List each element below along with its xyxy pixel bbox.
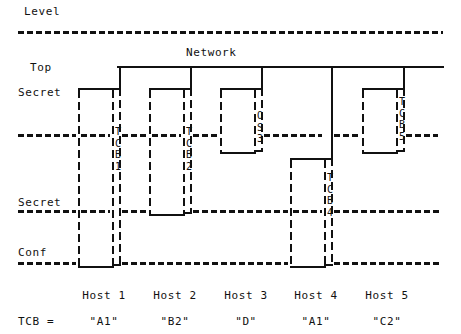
host-2-tcb-column-bottom [183,212,192,214]
host-2-box-left [149,90,151,214]
host-2-tcb-stack: T C B 2 [184,126,194,172]
host-1-box-bottom [78,266,114,268]
host-label-5: Host 5 [359,289,415,302]
host-1-tcb-stack: T C B 1 [113,126,123,172]
host-1-tcb-column-right [119,88,121,266]
host-4-network-stem [331,66,333,158]
tcb-row-label: TCB = [18,316,54,328]
host-label-3: Host 3 [218,289,274,302]
host-3-box-bottom [220,152,256,154]
tcb-value-host-3: "D" [218,315,274,328]
host-5-box-left [362,90,364,152]
host-label-2: Host 2 [147,289,203,302]
host-3-tcb-stack: O S 3 [255,110,265,145]
host-4-box-left [290,160,292,266]
network-label: Network [186,47,237,59]
host-4-box-bottom [290,266,326,268]
host-3-tcb-column-bottom [254,150,263,152]
host-5-tcb-column-bottom [396,150,405,152]
network-drop-host-5 [403,66,405,88]
host-4-tcb-column-bottom [324,264,333,266]
network-drop-host-3 [261,66,263,88]
tcb-value-host-2: "B2" [147,315,203,328]
top-secret-rule-seg-2 [122,134,146,137]
top-secret-rule-seg-1 [81,134,110,137]
top-secret-rule-seg-4 [193,134,217,137]
axis-label-top-secret: Secret [18,87,61,99]
host-3-box-left [220,90,222,152]
tcb-value-host-5: "C2" [359,315,415,328]
secret-rule-seg-2 [122,210,146,213]
top-secret-rule-seg-6 [334,134,359,137]
top-secret-rule-seg-0 [18,134,76,137]
secret-rule-seg-3 [193,210,288,213]
host-1-box-left [78,90,80,266]
network-drop-host-2 [190,66,192,88]
secret-rule-seg-0 [18,210,76,213]
secret-rule-seg-1 [81,210,110,213]
tcb-value-host-1: "A1" [76,315,132,328]
host-1-tcb-column-bottom [112,264,121,266]
top-secret-rule-seg-5 [264,134,322,137]
network-drop-host-1 [119,66,121,88]
secret-rule-seg-5 [334,210,442,213]
axis-label-secret: Secret [18,197,61,209]
host-label-4: Host 4 [288,289,344,302]
secret-rule-seg-4 [293,210,322,213]
top-secret-rule-seg-3 [152,134,181,137]
host-2-box-bottom [149,214,185,216]
conf-rule-seg-2 [334,262,442,265]
diagram-root: { "diagram": { "title": "Level", "networ… [0,0,461,334]
host-label-1: Host 1 [76,289,132,302]
tcb-value-host-4: "A1" [288,315,344,328]
host-1-box-right [112,90,114,266]
top-secret-rule-seg-7 [406,134,438,137]
level-rule-line [18,31,443,34]
host-5-box-bottom [362,152,398,154]
network-bus [117,66,444,68]
axis-label-conf: Conf [18,247,47,259]
axis-label-level: Level [24,6,60,18]
conf-rule-seg-1 [122,262,288,265]
axis-label-top: Top [30,62,52,74]
conf-rule-seg-0 [18,262,76,265]
